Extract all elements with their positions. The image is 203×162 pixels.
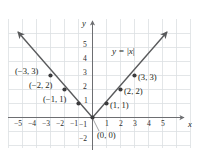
data-point-origin: [90, 115, 94, 119]
y-tick-label-neg2: −2: [79, 135, 87, 143]
x-tick-label-neg5: −5: [14, 120, 22, 128]
x-tick-label-5: 5: [161, 120, 165, 128]
x-tick-label-neg1: −1: [70, 120, 78, 128]
data-point-pos1: [104, 101, 108, 105]
y-tick-label-2: 2: [83, 83, 87, 91]
equation-lhs: y =: [112, 46, 127, 56]
point-label-3-3: (3, 3): [138, 73, 157, 82]
equation-label: y = |x|: [112, 47, 135, 56]
y-tick-label-neg1: −1: [79, 121, 87, 129]
abs-bar-close: |: [133, 46, 135, 56]
point-label-neg3-3: (−3, 3): [15, 67, 38, 76]
x-axis-label: x: [188, 120, 192, 129]
x-tick-label-neg3: −3: [42, 120, 50, 128]
point-label-1-1: (1, 1): [110, 101, 129, 110]
absolute-value-graph-figure: y x y = |x| 5 4 3 2 1 −1 −2 −5 −4 −3 −2 …: [0, 0, 203, 162]
point-label-neg1-1: (−1, 1): [43, 95, 66, 104]
point-label-origin: (0, 0): [97, 131, 116, 140]
x-tick-label-neg4: −4: [28, 120, 36, 128]
point-label-neg2-2: (−2, 2): [29, 81, 52, 90]
data-point-neg1: [76, 101, 80, 105]
y-tick-label-5: 5: [83, 41, 87, 49]
x-tick-label-neg2: −2: [56, 120, 64, 128]
y-tick-label-1: 1: [84, 97, 88, 105]
point-label-2-2: (2, 2): [124, 87, 143, 96]
y-tick-label-4: 4: [83, 55, 87, 63]
x-tick-label-3: 3: [133, 120, 137, 128]
data-point-pos2: [118, 87, 122, 91]
y-tick-label-3: 3: [83, 69, 87, 77]
x-tick-label-2: 2: [119, 120, 123, 128]
x-tick-label-1: 1: [105, 120, 109, 128]
y-axis-label: y: [82, 19, 86, 28]
data-point-pos3: [132, 73, 136, 77]
x-tick-label-4: 4: [147, 120, 151, 128]
data-point-neg2: [62, 87, 66, 91]
data-point-neg3: [48, 73, 52, 77]
